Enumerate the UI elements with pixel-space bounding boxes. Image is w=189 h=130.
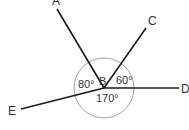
angle-diagram: A B C D E 80° 60° 170° bbox=[0, 0, 189, 130]
label-D: D bbox=[181, 82, 189, 96]
angle-label-80: 80° bbox=[78, 78, 95, 90]
label-C: C bbox=[148, 14, 157, 28]
label-B: B bbox=[99, 75, 106, 87]
angle-label-60: 60° bbox=[116, 74, 133, 86]
ray-BE bbox=[21, 88, 104, 109]
angle-label-170: 170° bbox=[96, 92, 119, 104]
ray-BA bbox=[57, 9, 104, 88]
label-E: E bbox=[8, 104, 16, 118]
label-A: A bbox=[52, 0, 60, 8]
